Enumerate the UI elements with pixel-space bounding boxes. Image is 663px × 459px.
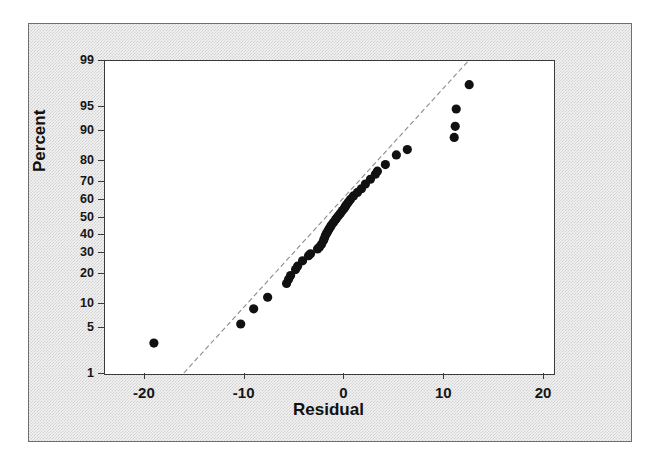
y-axis-tick	[98, 303, 104, 304]
x-axis-tick	[244, 373, 245, 379]
x-axis-tick	[144, 373, 145, 379]
x-axis-tick-label: 20	[513, 385, 573, 400]
y-axis-tick	[98, 106, 104, 107]
figure-canvas: 151020304050607080909599 -20-1001020 Per…	[0, 0, 663, 459]
y-axis-tick	[98, 273, 104, 274]
y-axis-tick-label: 60	[60, 193, 94, 206]
x-axis-tick-label: -10	[214, 385, 274, 400]
plot-frame	[104, 60, 555, 375]
y-axis-tick-label: 99	[60, 54, 94, 67]
y-axis-tick-label: 70	[60, 175, 94, 188]
y-axis-tick	[98, 199, 104, 200]
y-axis-tick	[98, 160, 104, 161]
x-axis-tick-label: -20	[114, 385, 174, 400]
y-axis-tick	[98, 373, 104, 374]
y-axis-tick-label: 20	[60, 267, 94, 280]
x-axis-tick-label: 0	[313, 385, 373, 400]
y-axis-tick-label: 95	[60, 100, 94, 113]
y-axis-tick-label: 40	[60, 228, 94, 241]
y-axis-tick	[98, 130, 104, 131]
x-axis-tick	[443, 373, 444, 379]
y-axis-tick-label: 90	[60, 124, 94, 137]
y-axis-tick-label: 80	[60, 154, 94, 167]
y-axis-tick	[98, 234, 104, 235]
x-axis-tick	[343, 373, 344, 379]
y-axis-title: Percent	[30, 148, 50, 172]
x-axis-tick-label: 10	[413, 385, 473, 400]
y-axis-tick-label: 1	[60, 367, 94, 380]
y-axis-tick-label: 50	[60, 211, 94, 224]
x-axis-title: Residual	[104, 400, 553, 420]
y-axis-tick	[98, 181, 104, 182]
y-axis-tick-label: 5	[60, 321, 94, 334]
x-axis-tick	[543, 373, 544, 379]
y-axis-tick	[98, 217, 104, 218]
y-axis-tick	[98, 252, 104, 253]
y-axis-tick	[98, 60, 104, 61]
y-axis-tick	[98, 327, 104, 328]
y-axis-tick-label: 30	[60, 246, 94, 259]
y-axis-tick-label: 10	[60, 297, 94, 310]
